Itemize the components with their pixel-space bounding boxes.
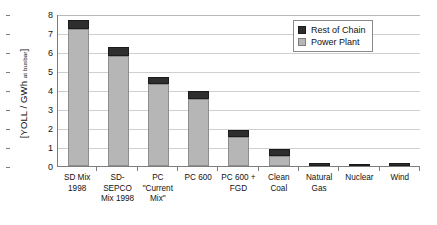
bar-segment-rest-of-chain: [349, 164, 370, 166]
stacked-bar[interactable]: [269, 149, 290, 166]
legend-item[interactable]: Rest of Chain: [298, 24, 366, 36]
bar-segment-rest-of-chain: [108, 47, 129, 56]
y-tick-label: 1: [13, 143, 53, 153]
x-axis-label-line: FGD: [219, 184, 257, 195]
x-axis-label-line: Natural: [300, 173, 338, 184]
x-tick: [57, 167, 97, 171]
x-axis-label-line: "Current: [139, 184, 177, 195]
x-tick: [259, 167, 299, 171]
x-axis-label-line: Gas: [300, 184, 338, 195]
y-tick-mark: [6, 72, 10, 73]
x-axis-label: PC 600 +FGD: [218, 173, 258, 205]
x-axis-label-line: SEPCO: [98, 184, 136, 195]
x-axis-label-line: Wind: [381, 173, 419, 184]
x-axis-label-line: Mix": [139, 194, 177, 205]
x-tick: [218, 167, 258, 171]
bar-slot: [138, 15, 178, 166]
x-axis-label-line: Mix 1998: [98, 194, 136, 205]
stacked-bar[interactable]: [148, 77, 169, 166]
y-tick-label: 5: [13, 67, 53, 77]
stacked-bar-chart: [YOLL / GWh at busbar] 876543210 SD Mix1…: [0, 0, 437, 225]
y-tick-label: 6: [13, 48, 53, 58]
bar-slot: [98, 15, 138, 166]
x-axis-label-line: SD-: [98, 173, 136, 184]
bar-segment-power-plant: [188, 99, 209, 166]
bar-segment-rest-of-chain: [148, 77, 169, 84]
x-axis-label: PC"CurrentMix": [138, 173, 178, 205]
x-axis-label-line: Coal: [260, 184, 298, 195]
y-tick-mark: [6, 53, 10, 54]
y-axis-ticks: 876543210: [10, 15, 53, 167]
bar-segment-rest-of-chain: [68, 20, 89, 29]
y-tick-label: 0: [13, 162, 53, 172]
x-axis-label-line: Nuclear: [340, 173, 378, 184]
y-tick-mark: [6, 167, 10, 168]
x-axis-label: CleanCoal: [259, 173, 299, 205]
y-tick-mark: [6, 91, 10, 92]
x-axis-label: Nuclear: [339, 173, 379, 205]
bar-segment-power-plant: [269, 156, 290, 166]
stacked-bar[interactable]: [309, 163, 330, 166]
bar-segment-power-plant: [108, 56, 129, 166]
y-tick-label: 7: [13, 29, 53, 39]
stacked-bar[interactable]: [389, 163, 410, 166]
bar-segment-power-plant: [148, 84, 169, 166]
x-axis-label-line: SD Mix: [58, 173, 96, 184]
bar-slot: [58, 15, 98, 166]
y-tick-label: 2: [13, 124, 53, 134]
bar-segment-rest-of-chain: [228, 130, 249, 138]
bar-segment-rest-of-chain: [188, 91, 209, 99]
y-tick-mark: [6, 110, 10, 111]
x-axis-label-line: PC 600 +: [219, 173, 257, 184]
stacked-bar[interactable]: [228, 130, 249, 166]
x-tick: [339, 167, 379, 171]
legend-swatch-icon: [298, 38, 306, 46]
legend-swatch-icon: [298, 26, 306, 34]
x-axis-label: PC 600: [178, 173, 218, 205]
bar-segment-rest-of-chain: [309, 163, 330, 166]
x-axis-label: NaturalGas: [299, 173, 339, 205]
x-axis-label-line: 1998: [58, 184, 96, 195]
bar-slot: [179, 15, 219, 166]
x-tick: [97, 167, 137, 171]
chart-legend: Rest of ChainPower Plant: [293, 20, 373, 52]
legend-label: Power Plant: [311, 37, 360, 47]
x-axis-label-line: Clean: [260, 173, 298, 184]
bar-segment-power-plant: [68, 29, 89, 166]
y-tick-label: 8: [13, 10, 53, 20]
y-tick-mark: [6, 15, 10, 16]
stacked-bar[interactable]: [68, 20, 89, 166]
y-tick-label: 3: [13, 105, 53, 115]
bar-segment-rest-of-chain: [389, 163, 410, 166]
stacked-bar[interactable]: [349, 164, 370, 166]
legend-item[interactable]: Power Plant: [298, 36, 366, 48]
y-tick-mark: [6, 148, 10, 149]
x-axis-label: SD-SEPCOMix 1998: [97, 173, 137, 205]
y-tick-mark: [6, 34, 10, 35]
x-axis-label-line: PC 600: [179, 173, 217, 184]
bar-slot: [219, 15, 259, 166]
x-axis-label: Wind: [380, 173, 420, 205]
x-tick: [178, 167, 218, 171]
x-axis-labels: SD Mix1998SD-SEPCOMix 1998PC"CurrentMix"…: [57, 173, 420, 205]
bar-slot: [380, 15, 420, 166]
x-tick: [380, 167, 420, 171]
x-axis-label: SD Mix1998: [57, 173, 97, 205]
x-tick: [138, 167, 178, 171]
stacked-bar[interactable]: [188, 91, 209, 166]
bar-segment-power-plant: [228, 137, 249, 166]
y-tick-label: 4: [13, 86, 53, 96]
legend-label: Rest of Chain: [311, 25, 366, 35]
y-tick-mark: [6, 129, 10, 130]
stacked-bar[interactable]: [108, 47, 129, 166]
x-axis-label-line: PC: [139, 173, 177, 184]
x-tick: [299, 167, 339, 171]
x-axis-tickmarks: [57, 167, 420, 171]
